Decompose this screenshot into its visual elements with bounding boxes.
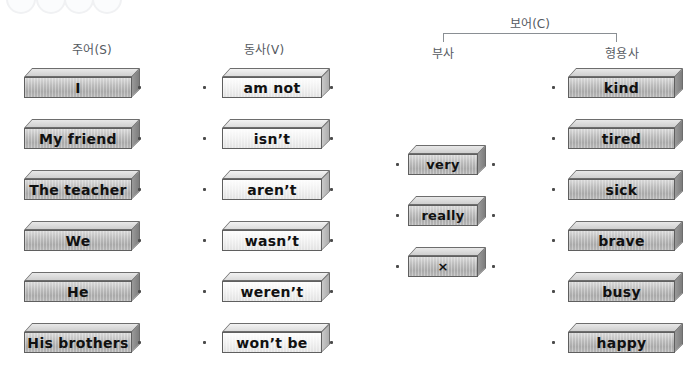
word-block-label: weren’t [222,281,322,302]
connector-dot-right[interactable] [330,341,333,344]
word-block-label: brave [568,230,675,251]
connector-dot-right[interactable] [330,239,333,242]
word-block-label: sick [568,179,675,200]
connector-dot-left[interactable] [552,341,555,344]
column-heading-verb: 동사(V) [214,40,314,57]
connector-dot-left[interactable] [552,188,555,191]
word-block-adverb[interactable]: very [408,145,478,166]
block-top-face [24,68,140,77]
connector-dot-right[interactable] [330,188,333,191]
word-block-verb[interactable]: am not [222,68,322,89]
connector-dot-left[interactable] [203,137,206,140]
block-top-face [568,323,683,332]
column-heading-subject: 주어(S) [42,40,142,57]
word-block-adverb[interactable]: × [408,247,478,268]
word-block-verb[interactable]: isn’t [222,119,322,140]
block-top-face [222,221,330,230]
block-top-face [568,68,683,77]
complement-bracket [443,33,617,42]
block-top-face [222,68,330,77]
word-block-subject[interactable]: My friend [24,119,132,140]
word-block-label: happy [568,332,675,353]
word-block-adverb[interactable]: really [408,196,478,217]
connector-dot-left[interactable] [203,188,206,191]
connector-dot-right[interactable] [492,163,495,166]
word-block-label: aren’t [222,179,322,200]
block-top-face [568,119,683,128]
word-block-label: am not [222,77,322,98]
connector-dot-left[interactable] [396,214,399,217]
connector-dot-left[interactable] [552,290,555,293]
decorative-circle-icon [64,0,94,14]
column-heading-adjective: 형용사 [572,44,672,61]
word-block-subject[interactable]: I [24,68,132,89]
block-top-face [222,119,330,128]
connector-dot-left[interactable] [396,265,399,268]
connector-dot-right[interactable] [330,86,333,89]
connector-dot-left[interactable] [203,86,206,89]
word-block-subject[interactable]: His brothers [24,323,132,344]
connector-dot-left[interactable] [552,239,555,242]
word-block-subject[interactable]: The teacher [24,170,132,191]
block-top-face [222,323,330,332]
block-top-face [222,272,330,281]
word-block-adjective[interactable]: happy [568,323,675,344]
word-block-label: really [408,205,478,226]
word-block-label: I [24,77,132,98]
block-top-face [408,196,486,205]
connector-dot-left[interactable] [203,290,206,293]
connector-dot-right[interactable] [138,341,141,344]
connector-dot-left[interactable] [396,163,399,166]
connector-dot-right[interactable] [138,137,141,140]
connector-dot-left[interactable] [203,239,206,242]
word-block-label: We [24,230,132,251]
connector-dot-right[interactable] [138,239,141,242]
word-block-label: His brothers [24,332,132,353]
connector-dot-right[interactable] [330,137,333,140]
block-top-face [222,170,330,179]
block-top-face [24,170,140,179]
word-block-adjective[interactable]: tired [568,119,675,140]
word-block-label: wasn’t [222,230,322,251]
connector-dot-left[interactable] [552,137,555,140]
word-block-label: My friend [24,128,132,149]
block-top-face [568,221,683,230]
block-top-face [24,272,140,281]
connector-dot-right[interactable] [492,214,495,217]
column-heading-complement: 보어(C) [450,14,610,31]
word-block-label: very [408,154,478,175]
block-top-face [408,247,486,256]
block-top-face [568,170,683,179]
word-block-adjective[interactable]: busy [568,272,675,293]
word-block-verb[interactable]: weren’t [222,272,322,293]
word-block-label: × [408,256,478,277]
decorative-circle-icon [6,0,36,14]
connector-dot-left[interactable] [203,341,206,344]
word-block-label: He [24,281,132,302]
word-block-label: tired [568,128,675,149]
word-block-verb[interactable]: wasn’t [222,221,322,242]
word-block-label: kind [568,77,675,98]
block-top-face [568,272,683,281]
word-block-adjective[interactable]: sick [568,170,675,191]
block-top-face [408,145,486,154]
connector-dot-right[interactable] [138,188,141,191]
word-block-label: isn’t [222,128,322,149]
connector-dot-right[interactable] [330,290,333,293]
word-block-subject[interactable]: We [24,221,132,242]
word-block-verb[interactable]: won’t be [222,323,322,344]
word-block-adjective[interactable]: kind [568,68,675,89]
word-block-subject[interactable]: He [24,272,132,293]
word-block-label: won’t be [222,332,322,353]
block-top-face [24,119,140,128]
word-block-verb[interactable]: aren’t [222,170,322,191]
decorative-circle-icon [36,0,66,14]
column-heading-adverb: 부사 [393,44,493,61]
word-block-label: The teacher [24,179,132,200]
connector-dot-right[interactable] [138,290,141,293]
word-block-adjective[interactable]: brave [568,221,675,242]
word-block-label: busy [568,281,675,302]
connector-dot-left[interactable] [552,86,555,89]
connector-dot-right[interactable] [492,265,495,268]
connector-dot-right[interactable] [138,86,141,89]
